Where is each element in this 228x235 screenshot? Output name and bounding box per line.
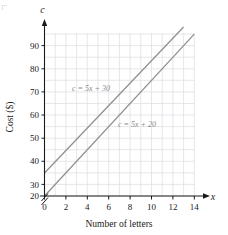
x-axis-variable-label: x	[210, 191, 216, 202]
x-tick-label: 2	[64, 202, 69, 212]
y-tick-label: 30	[30, 180, 40, 190]
x-axis-arrow	[203, 193, 210, 198]
cost-vs-letters-line-chart: 0 2 4 6 8 10 12 14 20 30 40 50 60 70 80 …	[0, 0, 228, 235]
y-tick-label: 50	[30, 133, 40, 143]
scan-artifact	[2, 5, 7, 10]
line-c-5x-plus-30	[45, 27, 184, 173]
y-axis-tick-labels: 20 30 40 50 60 70 80 90	[30, 41, 40, 201]
x-tick-label: 0	[42, 202, 47, 212]
x-tick-label: 6	[106, 202, 111, 212]
y-axis-title: Cost ($)	[5, 102, 16, 133]
axes	[40, 19, 210, 205]
x-axis-title: Number of letters	[85, 219, 152, 229]
x-tick-label: 14	[190, 202, 200, 212]
x-tick-label: 4	[85, 202, 90, 212]
y-tick-label: 70	[30, 87, 40, 97]
equation-label-lower-line: c = 5x + 20	[118, 120, 156, 129]
x-tick-label: 8	[128, 202, 133, 212]
equation-label-upper-line: c = 5x + 30	[72, 84, 110, 93]
y-tick-label: 90	[30, 41, 40, 51]
y-tick-label: 20	[30, 191, 40, 201]
y-axis-arrow	[42, 19, 47, 26]
y-tick-label: 60	[30, 110, 40, 120]
y-tick-label: 80	[30, 64, 40, 74]
x-tick-label: 12	[168, 202, 177, 212]
y-tick-label: 40	[30, 156, 40, 166]
y-axis-variable-label: c	[40, 4, 45, 15]
x-tick-label: 10	[147, 202, 157, 212]
x-axis-tick-labels: 0 2 4 6 8 10 12 14	[42, 202, 199, 212]
